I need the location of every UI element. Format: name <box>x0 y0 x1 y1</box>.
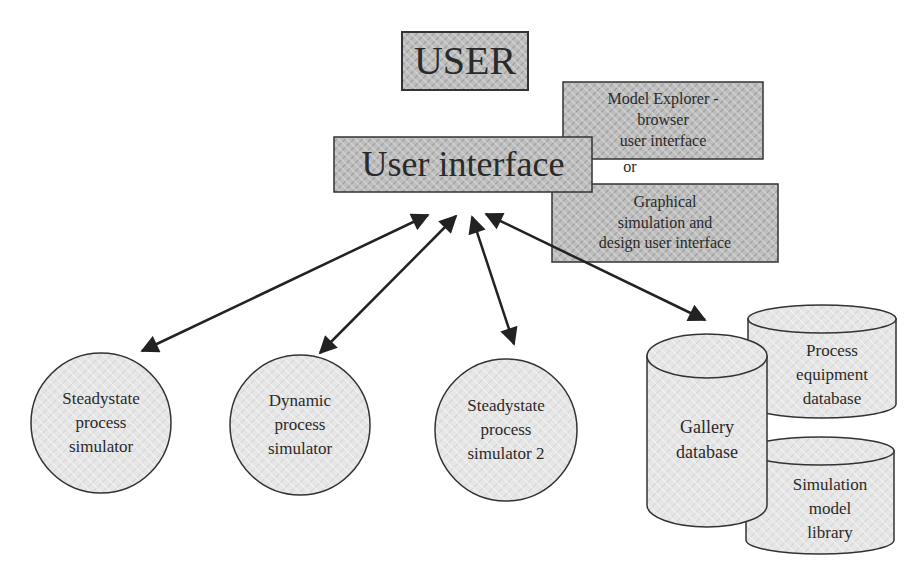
simulator-2-node: Dynamic process simulator <box>230 355 370 495</box>
simulator-1-node: Steadystate process simulator <box>31 353 171 493</box>
gallery-db-node: Gallery database <box>647 395 767 485</box>
process-equipment-db-node: Process equipment database <box>768 335 896 415</box>
gallery-db-label: Gallery database <box>676 415 738 465</box>
user-interface-label: User interface <box>362 144 565 185</box>
user-interface-box: User interface <box>334 137 592 192</box>
simulation-model-library-label: Simulation model library <box>793 473 868 544</box>
simulator-2-label: Dynamic process simulator <box>268 389 332 460</box>
or-separator: or <box>600 158 660 176</box>
simulator-3-label: Steadystate process simulator 2 <box>467 394 544 465</box>
arrow-ui-to-simulator-1 <box>142 215 428 351</box>
arrow-ui-to-simulator-3 <box>472 217 514 344</box>
model-explorer-option-box: Model Explorer - browser user interface <box>563 82 763 159</box>
simulation-model-library-node: Simulation model library <box>766 466 894 552</box>
process-equipment-db-label: Process equipment database <box>796 339 868 410</box>
simulator-3-node: Steadystate process simulator 2 <box>435 359 577 501</box>
arrow-ui-to-simulator-2 <box>320 216 456 353</box>
simulator-1-label: Steadystate process simulator <box>62 387 139 458</box>
graphical-ui-option-box: Graphical simulation and design user int… <box>552 184 778 262</box>
graphical-ui-label: Graphical simulation and design user int… <box>599 192 731 254</box>
user-label: USER <box>414 38 516 84</box>
model-explorer-label: Model Explorer - browser user interface <box>607 89 718 151</box>
user-box: USER <box>402 32 528 90</box>
